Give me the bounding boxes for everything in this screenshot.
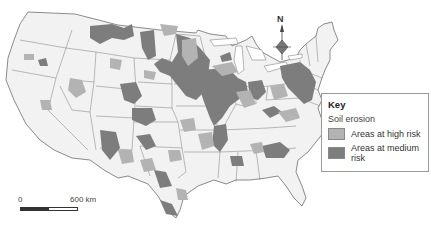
key-item-medium-risk: Areas at medium risk: [328, 143, 422, 163]
key-item-label: Areas at high risk: [351, 129, 421, 139]
medium-risk-swatch: [328, 147, 345, 159]
key-title: Key: [328, 99, 422, 110]
high-risk-swatch: [328, 128, 345, 140]
key-item-high-risk: Areas at high risk: [328, 128, 422, 140]
scale-bar-graphic: [20, 207, 78, 211]
scale-bar: 0 600 km: [18, 195, 82, 215]
north-arrow-icon: [272, 14, 292, 62]
key-item-label: Areas at medium risk: [351, 143, 422, 163]
scale-start-label: 0: [18, 195, 22, 204]
map-key: Key Soil erosion Areas at high risk Area…: [321, 93, 429, 172]
north-arrow: N: [272, 14, 292, 62]
key-subtitle: Soil erosion: [328, 114, 422, 124]
scale-end-label: 600 km: [70, 195, 96, 204]
